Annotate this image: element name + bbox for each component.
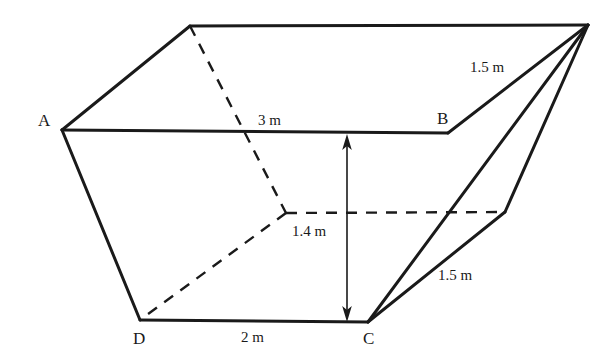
vertex-label-D: D xyxy=(133,330,145,347)
measure-1p4m-height: 1.4 m xyxy=(292,224,326,239)
geometry-figure: A B C D 3 m 2 m 1.4 m 1.5 m 1.5 m xyxy=(0,0,612,361)
hidden-edge-back-D xyxy=(140,213,286,320)
edge-A-D xyxy=(62,130,140,320)
vertex-label-C: C xyxy=(363,330,374,347)
measure-3m-top: 3 m xyxy=(258,113,281,128)
edge-A-topleft xyxy=(62,26,190,130)
measure-1p5m-upper-right: 1.5 m xyxy=(470,60,504,75)
vertex-label-B: B xyxy=(437,110,448,127)
measure-2m-bottom: 2 m xyxy=(241,330,264,345)
edge-topleft-topright xyxy=(190,25,588,26)
vertex-label-A: A xyxy=(38,112,50,129)
edge-B-topright xyxy=(448,25,588,133)
solid-edges xyxy=(62,25,588,322)
hidden-edge-back-backright xyxy=(286,212,505,213)
figure-canvas xyxy=(0,0,612,361)
measure-1p5m-lower-right: 1.5 m xyxy=(438,268,472,283)
edge-D-C xyxy=(140,320,368,322)
height-dimension-arrow xyxy=(342,134,352,322)
edge-A-B xyxy=(62,130,448,133)
